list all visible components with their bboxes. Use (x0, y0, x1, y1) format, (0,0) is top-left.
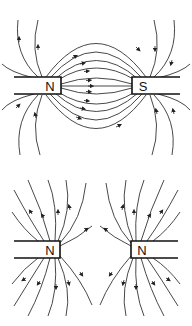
magnet-north-top-left: N (14, 77, 61, 94)
pole-label-n-left: N (45, 243, 54, 258)
magnetic-field-diagram: N S (0, 0, 192, 326)
panel-opposite-poles: N S (2, 20, 190, 155)
pole-label-s: S (139, 79, 148, 94)
magnet-south-top-right: S (132, 77, 180, 94)
panel-like-poles: N N (12, 180, 180, 316)
pole-label-n-right: N (137, 243, 146, 258)
magnet-north-bottom-left: N (14, 241, 60, 258)
magnet-north-bottom-right: N (131, 241, 178, 258)
pole-label-n: N (45, 79, 54, 94)
